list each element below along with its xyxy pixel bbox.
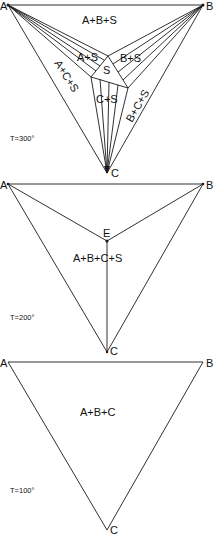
region-label-s: S [103, 64, 110, 76]
vertex-label-a: A [0, 179, 8, 191]
region-label-b-c-s: B+C+S [123, 87, 151, 124]
eutectic-point-label: E [103, 227, 110, 239]
panel-t100 [8, 362, 203, 530]
region-label-a-b-s: A+B+S [82, 14, 117, 26]
tie-lines-b-s [108, 5, 203, 88]
vertex-label-b: B [206, 179, 213, 191]
panel-t200 [8, 184, 203, 352]
ternary-diagram-stack: A B C A+B+S A+S B+S S C+S A+C+S B+C+S T=… [0, 0, 219, 536]
panel-t300 [8, 5, 203, 173]
region-label-c-s: C+S [96, 93, 118, 105]
region-label-a-c-s: A+C+S [52, 58, 81, 94]
vertex-label-c: C [110, 524, 118, 536]
vertex-label-a: A [0, 0, 8, 12]
vertex-label-b: B [206, 0, 213, 12]
temperature-label-t100: T=100° [10, 486, 34, 495]
eutectic-point-marker [105, 239, 108, 242]
vertex-label-c: C [110, 345, 118, 357]
vertex-label-a: A [0, 357, 8, 369]
outer-triangle [8, 362, 203, 530]
region-label-a-b-c-s: A+B+C+S [73, 252, 122, 264]
region-label-a-b-c: A+B+C [80, 406, 116, 418]
tie-line-b-e [107, 184, 203, 241]
tie-line-a-e [8, 184, 107, 241]
tie-lines-c-s [91, 77, 128, 173]
outer-triangle [8, 184, 203, 352]
vertex-label-b: B [206, 357, 213, 369]
temperature-label-t300: T=300° [10, 134, 34, 143]
vertex-label-c: C [111, 167, 119, 179]
region-label-b-s: B+S [120, 52, 141, 64]
temperature-label-t200: T=200° [10, 313, 34, 322]
region-label-a-s: A+S [77, 51, 98, 63]
